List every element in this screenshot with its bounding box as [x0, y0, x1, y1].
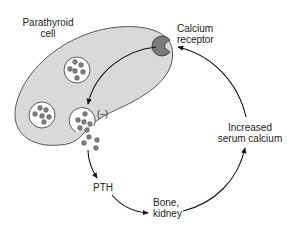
- secretory-vesicle: [64, 57, 90, 83]
- secretory-vesicle: [29, 102, 55, 128]
- label-line: kidney: [153, 208, 182, 219]
- increased-serum-calcium-label: Increased serum calcium: [214, 122, 286, 144]
- bone-kidney-label: Bone, kidney: [153, 197, 182, 219]
- label-line: cell: [22, 28, 74, 39]
- bone-kidney-to-calcium-arrow: [183, 148, 245, 211]
- label-line: receptor: [177, 34, 214, 45]
- pth-feedback-diagram: Parathyroid cell Calcium receptor (–) PT…: [0, 0, 292, 237]
- secretion-arrow: [88, 150, 97, 178]
- label-line: Parathyroid: [22, 17, 74, 28]
- label-line: Increased: [214, 122, 286, 133]
- pth-to-bone-kidney-arrow: [112, 195, 148, 213]
- label-line: Bone,: [153, 197, 182, 208]
- pth-label: PTH: [93, 182, 113, 193]
- calcium-receptor-label: Calcium receptor: [177, 23, 214, 45]
- label-line: Calcium: [177, 23, 214, 34]
- label-line: serum calcium: [214, 133, 286, 144]
- calcium-to-receptor-arrow: [178, 47, 246, 117]
- parathyroid-cell-label: Parathyroid cell: [22, 17, 74, 39]
- inhibition-label: (–): [97, 109, 108, 120]
